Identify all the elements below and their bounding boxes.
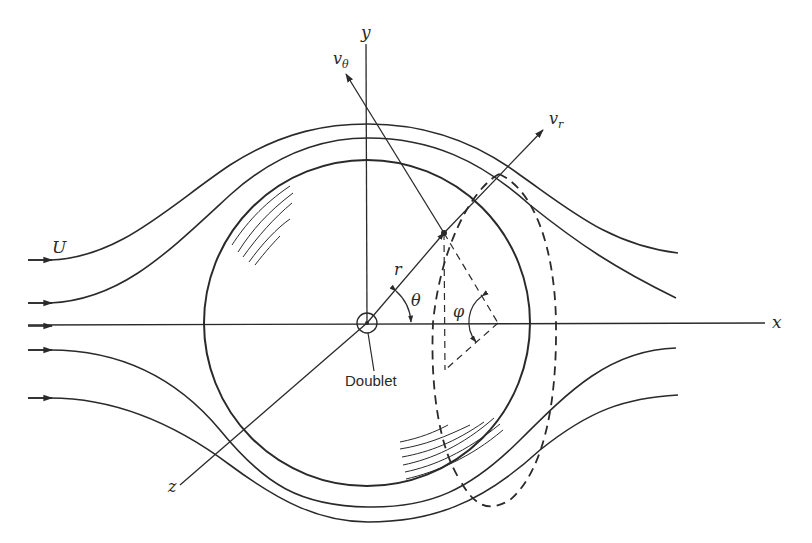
vtheta-vector [346, 74, 444, 233]
streamline-upper-outer [28, 124, 678, 260]
radius-line [367, 233, 444, 323]
x-axis [28, 323, 765, 325]
doublet-label: Doublet [345, 372, 398, 389]
doublet-leader [368, 333, 374, 371]
theta-label: θ [411, 291, 421, 310]
freestream-label: U [52, 237, 67, 257]
y-axis [366, 44, 367, 323]
streamlines-upper [28, 124, 678, 303]
phi-angle-arc [469, 296, 482, 342]
z-axis [180, 323, 367, 485]
x-axis-label: x [772, 312, 782, 332]
phi-label: φ [453, 302, 465, 321]
radius-label: r [394, 260, 403, 279]
vr-label: vr [549, 109, 564, 131]
z-axis-label: z [167, 477, 177, 496]
sphere-hatching-lower [400, 418, 503, 479]
streamline-upper-inner [28, 138, 676, 303]
theta-angle-arc [396, 291, 411, 322]
doublet-center [365, 321, 369, 325]
vtheta-label: vθ [333, 49, 349, 71]
flow-past-sphere-diagram: x y z U r θ φ vr vθ Doublet [0, 0, 812, 543]
y-axis-label: y [360, 22, 371, 42]
streamline-lower-outer [28, 395, 678, 522]
